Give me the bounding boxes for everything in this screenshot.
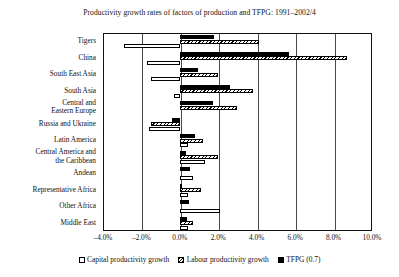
- y-axis-label-line: Eastern Europe: [0, 107, 96, 115]
- bar-capital: [124, 44, 180, 48]
- x-axis-tick-label: –2.0%: [132, 233, 151, 242]
- bar-tfpg: [180, 217, 187, 221]
- y-axis-label-line: Russia and Ukraine: [39, 120, 96, 128]
- bar-labour: [180, 40, 259, 44]
- x-axis-tick-label: 8.0%: [326, 233, 341, 242]
- legend-swatch-capital-icon: [79, 257, 85, 263]
- bar-capital: [180, 226, 188, 230]
- bar-capital: [147, 61, 180, 65]
- legend-item[interactable]: Capital productivity growth: [79, 255, 170, 264]
- x-axis-tick-label: 6.0%: [288, 233, 303, 242]
- bar-tfpg: [180, 167, 191, 171]
- bar-labour: [151, 122, 180, 126]
- legend-label: Labour productivity growth: [187, 255, 269, 264]
- y-axis-label: Latin America: [54, 136, 96, 144]
- y-axis-label-line: Middle East: [61, 219, 96, 227]
- bar-group: [103, 182, 372, 199]
- bar-tfpg: [180, 68, 198, 72]
- bar-capital: [180, 209, 220, 213]
- bar-group: [103, 50, 372, 67]
- y-axis-label: Russia and Ukraine: [39, 120, 96, 128]
- y-axis-label-line: South East Asia: [50, 70, 96, 78]
- chart-title: Productivity growth rates of factors of …: [0, 8, 399, 17]
- y-axis-label: Representative Africa: [33, 186, 96, 194]
- x-axis-tick-label: 4.0%: [249, 233, 264, 242]
- bar-labour: [180, 73, 218, 77]
- x-axis-labels: –4.0%–2.0%0.0%2.0%4.0%6.0%8.0%10.0%: [0, 233, 399, 246]
- y-axis-label-line: China: [79, 54, 96, 62]
- bar-group: [103, 215, 372, 232]
- bar-group: [103, 99, 372, 116]
- bar-labour: [180, 89, 253, 93]
- y-axis-label: Tigers: [78, 37, 96, 45]
- bar-group: [103, 165, 372, 182]
- bar-tfpg: [180, 85, 230, 89]
- x-axis-tick-label: 10.0%: [363, 233, 382, 242]
- bar-capital: [180, 143, 188, 147]
- bar-labour: [180, 139, 203, 143]
- bar-tfpg: [180, 35, 215, 39]
- y-axis-label: South Asia: [64, 87, 96, 95]
- y-axis-label-line: Tigers: [78, 37, 96, 45]
- bar-tfpg: [180, 134, 195, 138]
- bar-capital: [180, 160, 205, 164]
- bar-labour: [180, 221, 193, 225]
- bar-group: [103, 116, 372, 133]
- y-axis-label: Central andEastern Europe: [0, 99, 96, 116]
- bar-tfpg: [180, 52, 290, 56]
- bar-capital: [174, 94, 180, 98]
- bar-labour: [180, 188, 201, 192]
- x-axis-tick-label: 2.0%: [211, 233, 226, 242]
- legend-swatch-tfpg-icon: [278, 257, 284, 263]
- y-axis-label: Middle East: [61, 219, 96, 227]
- y-axis-label: Other Africa: [59, 202, 96, 210]
- bar-group: [103, 149, 372, 166]
- y-axis-label-line: Representative Africa: [33, 186, 96, 194]
- x-axis-tick-label: 0.0%: [172, 233, 187, 242]
- productivity-growth-chart: Productivity growth rates of factors of …: [0, 0, 399, 277]
- bar-capital: [180, 176, 193, 180]
- bar-tfpg: [180, 184, 182, 188]
- bar-capital: [180, 193, 188, 197]
- y-axis-labels: TigersChinaSouth East AsiaSouth AsiaCent…: [0, 33, 100, 231]
- y-axis-label: South East Asia: [50, 70, 96, 78]
- y-axis-label-line: South Asia: [64, 87, 96, 95]
- legend-label: Capital productivity growth: [87, 255, 169, 264]
- bar-group: [103, 66, 372, 83]
- bar-tfpg: [180, 200, 190, 204]
- bar-tfpg: [172, 118, 180, 122]
- y-axis-label-line: the Caribbean: [0, 157, 96, 165]
- y-axis-label: Andean: [73, 169, 96, 177]
- legend-label: TFPG (0.7): [286, 255, 320, 264]
- y-axis-label-line: Other Africa: [59, 202, 96, 210]
- bar-capital: [151, 77, 180, 81]
- bar-group: [103, 198, 372, 215]
- y-axis-label-line: Latin America: [54, 136, 96, 144]
- legend-item[interactable]: TFPG (0.7): [278, 255, 321, 264]
- bar-group: [103, 33, 372, 50]
- x-axis-tick-label: –4.0%: [94, 233, 113, 242]
- chart-legend: Capital productivity growthLabour produc…: [0, 255, 399, 264]
- bar-rows-container: [103, 33, 372, 231]
- y-axis-label-line: Andean: [73, 169, 96, 177]
- y-axis-label: China: [79, 54, 96, 62]
- bar-tfpg: [180, 151, 186, 155]
- bar-capital: [149, 127, 180, 131]
- bar-labour: [180, 155, 218, 159]
- bar-group: [103, 132, 372, 149]
- bar-group: [103, 83, 372, 100]
- legend-swatch-labour-icon: [178, 257, 184, 263]
- bar-labour: [180, 56, 347, 60]
- y-axis-label: Central America andthe Caribbean: [0, 148, 96, 165]
- legend-item[interactable]: Labour productivity growth: [178, 255, 269, 264]
- bar-labour: [180, 106, 238, 110]
- bar-tfpg: [180, 101, 213, 105]
